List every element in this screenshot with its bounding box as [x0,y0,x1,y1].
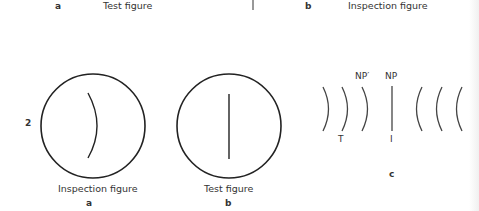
panel-c-diagram [323,86,462,131]
label-t: T [338,134,344,144]
label-i: I [390,134,393,144]
figure-drawing [0,0,479,211]
panel-a-letter: a [86,198,92,208]
panel-a-arc-icon [88,93,97,158]
arc-right-3 [362,87,368,131]
arc-left-1 [417,87,423,131]
panel-b-letter: b [225,198,231,208]
arc-left-3 [457,87,463,131]
label-np: NP [385,71,397,81]
panel-b-diagram [177,74,281,178]
arc-right-1 [323,87,329,131]
panel-a-circle [41,74,145,178]
panel-a-caption: Inspection figure [58,183,138,194]
arc-right-2 [342,87,348,131]
panel-c-letter: c [389,169,394,179]
panel-b-caption: Test figure [204,183,253,194]
panel-a-diagram [41,74,145,178]
arc-left-2 [437,87,443,131]
label-np-prime: NP′ [355,71,369,81]
row-number: 2 [25,118,31,128]
